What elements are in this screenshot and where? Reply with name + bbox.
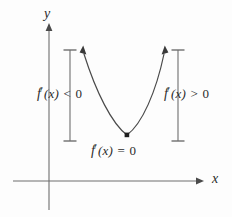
- label-derivative-zero-operator: =: [116, 143, 126, 158]
- label-derivative-zero: f′(x) = 0: [91, 144, 136, 158]
- y-axis-arrowhead: [46, 23, 53, 31]
- derivative-sign-diagram: y x f′(x) < 0 f′(x) > 0 f′(x) = 0: [0, 0, 232, 217]
- parabola-curve: [84, 54, 164, 135]
- x-axis-label: x: [212, 172, 218, 186]
- label-derivative-positive-operator: >: [189, 86, 199, 101]
- x-axis-arrowhead: [196, 178, 204, 185]
- label-derivative-negative-arg: (x): [44, 86, 59, 101]
- label-derivative-zero-arg: (x): [98, 143, 113, 158]
- label-derivative-zero-value: 0: [129, 143, 136, 158]
- label-derivative-negative-prime: ′: [40, 85, 43, 99]
- diagram-canvas: [0, 0, 232, 217]
- label-derivative-positive: f′(x) > 0: [164, 87, 209, 101]
- label-derivative-positive-prime: ′: [167, 85, 170, 99]
- y-axis-label: y: [44, 7, 50, 21]
- curve-left-arrowhead: [80, 46, 87, 55]
- label-derivative-positive-arg: (x): [171, 86, 186, 101]
- label-derivative-zero-prime: ′: [94, 142, 97, 156]
- label-derivative-positive-value: 0: [202, 86, 209, 101]
- curve-right-arrowhead: [162, 46, 169, 55]
- label-derivative-negative-operator: <: [62, 86, 72, 101]
- label-derivative-negative: f′(x) < 0: [37, 87, 82, 101]
- vertex-point-marker: [125, 133, 130, 138]
- label-derivative-negative-value: 0: [75, 86, 82, 101]
